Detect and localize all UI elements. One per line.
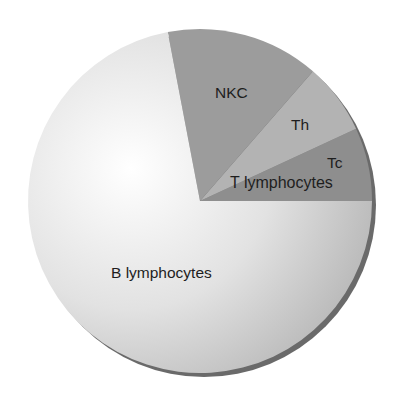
slice-label-tc: Tc xyxy=(327,154,343,172)
pie-chart xyxy=(0,0,410,407)
group-label-t-lymphocytes: T lymphocytes xyxy=(230,174,333,192)
slice-label-nkc: NKC xyxy=(215,84,248,102)
slice-label-th: Th xyxy=(291,116,309,134)
slice-label-b-lymphocytes: B lymphocytes xyxy=(111,264,212,282)
